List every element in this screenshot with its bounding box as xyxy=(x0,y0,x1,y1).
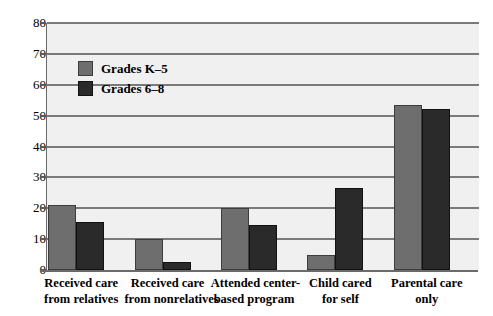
bar-k5-0 xyxy=(48,205,76,270)
legend: Grades K–5 Grades 6–8 xyxy=(78,61,168,96)
category-label-line: Parental care xyxy=(384,276,470,292)
category-label-line: Received care xyxy=(38,276,124,292)
legend-label-g68: Grades 6–8 xyxy=(101,82,164,95)
legend-item-k5: Grades K–5 xyxy=(78,61,168,76)
legend-swatch-g68-icon xyxy=(78,81,93,96)
category-label-line: only xyxy=(384,292,470,308)
category-label-2: Attended center-based program xyxy=(211,276,297,307)
grouped-bar-chart: 80706050403020100 Grades K–5 Grades 6–8 … xyxy=(0,0,493,316)
bar-g68-4 xyxy=(422,109,450,270)
bar-g68-2 xyxy=(249,225,277,270)
bar-k5-3 xyxy=(307,255,335,270)
bar-g68-0 xyxy=(76,222,104,270)
category-label-line: Attended center- xyxy=(211,276,297,292)
category-label-4: Parental careonly xyxy=(384,276,470,307)
bar-k5-4 xyxy=(394,105,422,270)
x-axis-category-labels: Received carefrom relativesReceived care… xyxy=(46,276,478,316)
bar-k5-1 xyxy=(135,239,163,270)
legend-label-k5: Grades K–5 xyxy=(101,62,168,75)
category-label-0: Received carefrom relatives xyxy=(38,276,124,307)
bar-g68-3 xyxy=(335,188,363,270)
category-label-3: Child caredfor self xyxy=(297,276,383,307)
category-label-line: from relatives xyxy=(38,292,124,308)
legend-item-g68: Grades 6–8 xyxy=(78,81,168,96)
category-label-line: for self xyxy=(297,292,383,308)
bar-k5-2 xyxy=(221,208,249,270)
category-label-line: Child cared xyxy=(297,276,383,292)
category-label-line: from nonrelatives xyxy=(124,292,210,308)
bars-layer xyxy=(0,0,493,316)
legend-swatch-k5-icon xyxy=(78,61,93,76)
category-label-line: Received care xyxy=(124,276,210,292)
category-label-line: based program xyxy=(211,292,297,308)
bar-g68-1 xyxy=(163,262,191,270)
category-label-1: Received carefrom nonrelatives xyxy=(124,276,210,307)
